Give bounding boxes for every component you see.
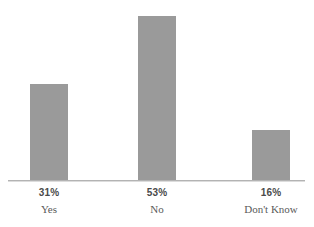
bar-slot-dont-know: [252, 16, 290, 180]
category-label-yes: Yes: [4, 202, 94, 217]
x-axis-line: [8, 180, 305, 181]
value-label-no: 53%: [112, 186, 202, 199]
bar-chart: 31% Yes 53% No 16% Don't Know: [0, 0, 314, 227]
bar-yes[interactable]: [30, 84, 68, 180]
bar-dont-know[interactable]: [252, 130, 290, 180]
category-label-dont-know: Don't Know: [226, 202, 314, 217]
value-label-yes: 31%: [4, 186, 94, 199]
bar-slot-no: [138, 16, 176, 180]
axis-label-group-dont-know: 16% Don't Know: [226, 186, 314, 217]
bar-slot-yes: [30, 16, 68, 180]
category-label-no: No: [112, 202, 202, 217]
plot-area: [0, 0, 314, 180]
axis-label-group-yes: 31% Yes: [4, 186, 94, 217]
value-label-dont-know: 16%: [226, 186, 314, 199]
axis-label-group-no: 53% No: [112, 186, 202, 217]
bar-no[interactable]: [138, 16, 176, 180]
